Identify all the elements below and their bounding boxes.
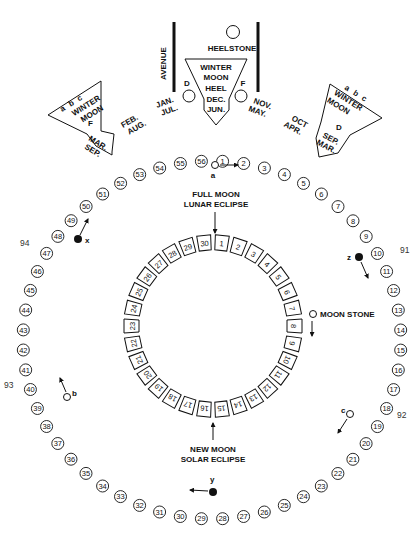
- aubrey-hole: 13: [392, 304, 404, 316]
- hole-number: 33: [116, 492, 124, 501]
- hole-number: 50: [82, 202, 90, 211]
- day-box: 18: [162, 388, 182, 408]
- aubrey-hole: 25: [278, 499, 290, 511]
- aubrey-hole: 7: [332, 201, 344, 213]
- hole-number: 28: [218, 514, 226, 523]
- svg-text:LUNAR ECLIPSE: LUNAR ECLIPSE: [184, 200, 249, 209]
- aubrey-hole: 40: [24, 384, 36, 396]
- hole-number: 43: [19, 326, 27, 335]
- aubrey-hole: 14: [395, 324, 407, 336]
- aubrey-hole: 39: [31, 403, 43, 415]
- side-number-94: 94: [20, 238, 30, 248]
- hole-number: 47: [42, 249, 50, 258]
- aubrey-hole: 9: [360, 231, 372, 243]
- aubrey-hole: 12: [388, 285, 400, 297]
- day-box: 9: [284, 335, 302, 352]
- hole-number: 54: [156, 164, 164, 173]
- hole-number: 37: [54, 439, 62, 448]
- svg-text:z: z: [347, 253, 351, 262]
- hole-number: 20: [362, 439, 370, 448]
- f-label: F: [241, 79, 246, 88]
- moon-stone-marker: MOON STONE: [310, 310, 376, 336]
- aubrey-hole: 6: [315, 188, 327, 200]
- day-box: 19: [148, 378, 168, 399]
- aubrey-hole: 50: [80, 201, 92, 213]
- day-box: 14: [229, 396, 247, 415]
- heelstone-label: HEELSTONE: [208, 44, 257, 53]
- svg-text:DEC.: DEC.: [206, 95, 225, 104]
- day-box: 30: [197, 235, 212, 251]
- svg-text:D: D: [336, 123, 342, 132]
- side-number-91: 91: [400, 245, 410, 255]
- day-box: 6: [278, 283, 297, 302]
- hole-number: 26: [260, 508, 268, 517]
- right-winter-moon-marker: a b c WINTER MOON D SEP. MAR.: [315, 79, 382, 157]
- hole-number: 9: [364, 232, 368, 241]
- aubrey-hole: 3: [258, 162, 270, 174]
- avenue-label: AVENUE: [159, 47, 168, 80]
- heel-marker: WINTER MOON HEEL DEC. JUN. D F: [183, 59, 247, 125]
- aubrey-hole: 42: [17, 344, 29, 356]
- left-winter-moon-marker: a b c WINTER MOON F MAR. SEP.: [48, 81, 114, 160]
- day-box: 26: [137, 267, 157, 287]
- hole-number: 17: [389, 385, 397, 394]
- hole-number: 35: [82, 469, 90, 478]
- aubrey-hole: 55: [174, 158, 186, 170]
- day-box: 24: [125, 300, 143, 317]
- aubrey-hole: 38: [41, 421, 53, 433]
- aubrey-hole: 22: [332, 468, 344, 480]
- day-box: 10: [278, 351, 297, 370]
- hole-number: 16: [394, 366, 402, 375]
- day-box: 27: [148, 254, 168, 275]
- day-box: 7: [284, 300, 302, 317]
- hole-number: 8: [351, 217, 355, 226]
- svg-text:MOON STONE: MOON STONE: [320, 310, 375, 319]
- day-number: 8: [289, 324, 298, 328]
- day-number: 16: [200, 403, 209, 413]
- svg-text:c: c: [341, 406, 346, 415]
- aubrey-hole: 36: [65, 453, 77, 465]
- svg-text:NEW MOON: NEW MOON: [190, 445, 236, 454]
- hole-number: 13: [394, 306, 402, 315]
- svg-text:x: x: [85, 236, 90, 245]
- svg-text:JUN.: JUN.: [207, 105, 225, 114]
- day-box: 29: [179, 237, 197, 256]
- hole-number: 25: [280, 501, 288, 510]
- day-box: 5: [269, 267, 289, 287]
- aubrey-hole: 44: [20, 304, 32, 316]
- hole-number: 29: [197, 514, 205, 523]
- day-number: 23: [128, 322, 137, 330]
- hole-number: 6: [319, 190, 323, 199]
- hole-number: 32: [135, 501, 143, 510]
- aubrey-hole: 43: [17, 324, 29, 336]
- new-moon-marker: NEW MOON SOLAR ECLIPSE: [181, 423, 246, 464]
- hole-number: 48: [54, 232, 62, 241]
- hole-number: 53: [136, 170, 144, 179]
- hole-number: 18: [382, 404, 390, 413]
- aubrey-hole: 51: [97, 188, 109, 200]
- day-box: 16: [197, 401, 212, 417]
- aubrey-hole: 18: [381, 403, 393, 415]
- hole-number: 46: [33, 267, 41, 276]
- aubrey-hole: 31: [154, 506, 166, 518]
- hole-number: 7: [336, 202, 340, 211]
- marker-b: b: [60, 378, 77, 401]
- hole-number: 10: [373, 249, 381, 258]
- stone-f: [235, 90, 247, 102]
- day-box: 20: [137, 365, 157, 385]
- day-box: 13: [244, 388, 264, 408]
- hole-number: 11: [383, 267, 391, 276]
- aubrey-hole: 37: [52, 438, 64, 450]
- aubrey-hole: 45: [24, 284, 36, 296]
- aubrey-hole: 34: [97, 480, 109, 492]
- aubrey-hole: 21: [347, 453, 359, 465]
- day-number: 30: [200, 239, 209, 249]
- aubrey-hole: 24: [297, 491, 309, 503]
- aubrey-hole: 46: [31, 266, 43, 278]
- svg-text:F: F: [88, 119, 93, 128]
- hole-number: 45: [26, 286, 34, 295]
- aubrey-hole: 54: [154, 162, 166, 174]
- stone-d: [183, 90, 195, 102]
- aubrey-hole: 30: [174, 511, 186, 523]
- hole-number: 3: [262, 164, 266, 173]
